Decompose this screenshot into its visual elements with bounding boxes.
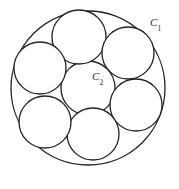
label-center-subscript: 2 <box>100 78 104 87</box>
figure-container: C1 C2 <box>0 0 179 189</box>
label-center-circle: C2 <box>92 71 103 85</box>
label-outer-subscript: 1 <box>158 24 162 33</box>
ring-circle-3 <box>110 79 162 131</box>
ring-circle-4 <box>67 108 119 160</box>
ring-circle-6 <box>14 42 66 94</box>
ring-circle-2 <box>102 27 154 79</box>
label-outer-base: C <box>150 16 157 28</box>
ring-circle-5 <box>19 96 71 148</box>
label-center-base: C <box>92 70 99 82</box>
circle-group <box>11 10 165 165</box>
label-outer-circle: C1 <box>150 17 161 31</box>
